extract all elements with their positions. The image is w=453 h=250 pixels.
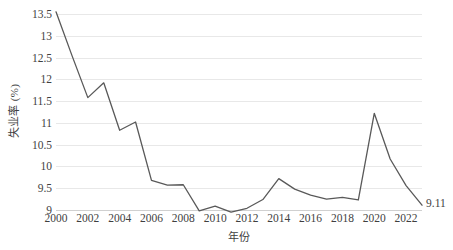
y-axis-tick-label: 13 bbox=[41, 30, 53, 42]
x-axis-tick-label: 2006 bbox=[140, 212, 163, 224]
y-axis-tick-label: 11 bbox=[41, 117, 52, 129]
x-axis-tick-label: 2014 bbox=[267, 212, 290, 224]
y-axis-tick-label: 12.5 bbox=[32, 52, 52, 64]
y-axis-tick-label: 10.5 bbox=[32, 139, 52, 151]
unemployment-rate-line-chart: 失业率 (%) 99.51010.51111.51212.51313.5 200… bbox=[0, 0, 453, 250]
x-axis-tick-label: 2016 bbox=[299, 212, 322, 224]
y-axis-tick-label: 10 bbox=[41, 160, 53, 172]
y-axis-tick-label: 13.5 bbox=[32, 8, 52, 20]
plot-area bbox=[56, 14, 422, 210]
x-axis-tick-label: 2002 bbox=[76, 212, 99, 224]
x-axis-tick-label: 2008 bbox=[172, 212, 195, 224]
y-axis-title-label: 失业率 (%) bbox=[5, 84, 21, 138]
x-axis-tick-label: 2022 bbox=[395, 212, 418, 224]
y-axis-tick-label: 9.5 bbox=[38, 182, 52, 194]
y-axis-tick-labels: 99.51010.51111.51212.51313.5 bbox=[22, 0, 52, 222]
y-axis-tick-label: 11.5 bbox=[32, 95, 52, 107]
x-axis-tick-label: 2018 bbox=[331, 212, 354, 224]
series-line-unemployment-rate bbox=[52, 10, 426, 214]
x-axis-title: 年份 bbox=[56, 228, 422, 244]
x-axis-tick-label: 2012 bbox=[235, 212, 258, 224]
series-polyline bbox=[56, 12, 422, 212]
x-axis-tick-labels: 2000200220042006200820102012201420162018… bbox=[0, 212, 453, 228]
y-axis-tick-label: 12 bbox=[41, 73, 53, 85]
x-axis-tick-label: 2000 bbox=[45, 212, 68, 224]
x-axis-tick-label: 2020 bbox=[363, 212, 386, 224]
bottom-caption bbox=[0, 243, 453, 250]
x-axis-tick-label: 2004 bbox=[108, 212, 131, 224]
end-point-data-label: 9.11 bbox=[426, 197, 446, 209]
x-axis-tick-label: 2010 bbox=[204, 212, 227, 224]
